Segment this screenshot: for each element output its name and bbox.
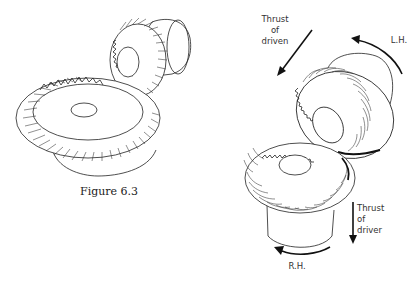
thrust-driver-line-1: Thrust (357, 203, 397, 214)
thrust-of-driver-label: Thrust of driver (357, 203, 397, 236)
thrust-driven-line-2: of (255, 25, 295, 36)
thrust-driver-line-2: of (357, 214, 397, 225)
straight-bevel-gear-illustration (0, 0, 210, 282)
right-hand-label: R.H. (285, 261, 309, 272)
spiral-bevel-gear-figure (210, 0, 415, 282)
large-bevel-gear (16, 77, 160, 161)
thrust-driven-line-1: Thrust (255, 14, 295, 25)
left-hand-label: L.H. (387, 35, 411, 46)
driver-gear (244, 143, 355, 213)
thrust-driver-line-3: driver (357, 225, 397, 236)
straight-bevel-gear-figure: Figure 6.3 (0, 0, 210, 282)
thrust-of-driven-label: Thrust of driven (255, 14, 295, 47)
figure-caption: Figure 6.3 (80, 185, 138, 198)
spiral-bevel-gear-illustration (210, 0, 415, 282)
thrust-driven-line-3: driven (255, 36, 295, 47)
thrust-driver-arrow-icon (349, 202, 357, 244)
